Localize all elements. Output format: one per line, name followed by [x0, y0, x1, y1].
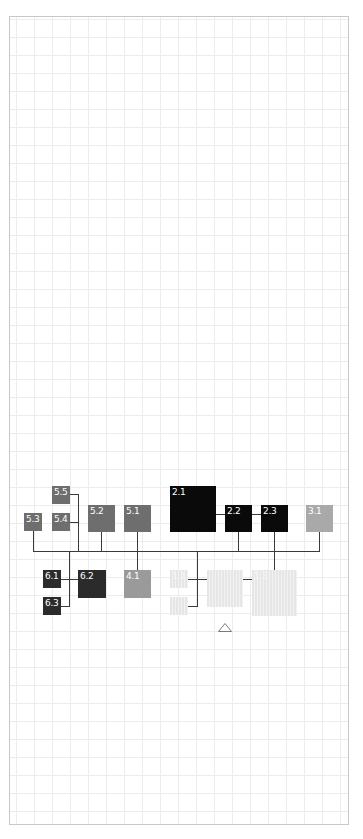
connector-line — [243, 579, 252, 580]
connector-line — [216, 514, 225, 515]
connector-line — [319, 532, 320, 551]
triangle-marker-icon — [218, 617, 232, 636]
connector-line — [101, 532, 102, 551]
node-5-5[interactable]: 5.5 — [52, 486, 70, 504]
node-label: 2.1 — [172, 487, 185, 497]
connector-line — [61, 606, 69, 607]
node-1-3[interactable]: 1.3 — [252, 570, 297, 616]
node-5-2[interactable]: 5.2 — [88, 505, 115, 532]
node-6-1[interactable]: 6.1 — [43, 570, 61, 588]
node-5-3[interactable]: 5.3 — [24, 513, 42, 531]
node-6-2[interactable]: 6.2 — [78, 570, 106, 598]
node-1-0[interactable] — [207, 570, 243, 607]
connector-line — [252, 514, 261, 515]
node-label: 1.1 — [172, 571, 185, 581]
node-2-1[interactable]: 2.1 — [170, 486, 216, 532]
node-6-3[interactable]: 6.3 — [43, 597, 61, 615]
node-label: 5.1 — [126, 506, 139, 516]
node-label: 1.3 — [254, 571, 267, 581]
connector-line — [61, 579, 78, 580]
node-label: 6.1 — [45, 571, 58, 581]
node-1-2[interactable] — [170, 597, 188, 615]
node-label: 4.1 — [126, 571, 139, 581]
node-label: 3.1 — [308, 506, 321, 516]
node-label: 6.3 — [45, 598, 58, 608]
connector-line — [274, 532, 275, 570]
node-label: 5.5 — [54, 487, 67, 497]
connector-line — [33, 551, 320, 552]
node-label: 5.3 — [26, 514, 39, 524]
node-label: 5.4 — [54, 514, 67, 524]
node-5-1[interactable]: 5.1 — [124, 505, 151, 532]
connector-line — [188, 579, 207, 580]
node-label: 6.2 — [80, 571, 93, 581]
node-5-4[interactable]: 5.4 — [52, 513, 70, 531]
node-2-2[interactable]: 2.2 — [225, 505, 252, 532]
connector-line — [33, 531, 34, 551]
grid-canvas — [9, 16, 349, 825]
node-1-1[interactable]: 1.1 — [170, 570, 188, 588]
connector-line — [137, 532, 138, 570]
node-label: 5.2 — [90, 506, 103, 516]
connector-line — [188, 606, 197, 607]
connector-line — [78, 494, 79, 551]
node-3-1[interactable]: 3.1 — [306, 505, 333, 532]
connector-line — [238, 532, 239, 551]
node-label: 2.3 — [263, 506, 276, 516]
node-4-1[interactable]: 4.1 — [124, 570, 151, 598]
node-2-3[interactable]: 2.3 — [261, 505, 288, 532]
node-label: 2.2 — [227, 506, 240, 516]
